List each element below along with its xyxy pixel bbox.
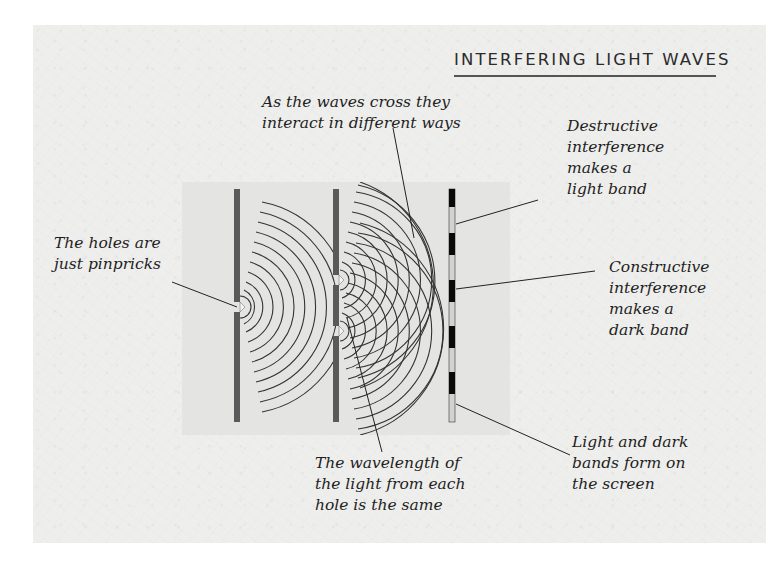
double-slit-barrier xyxy=(333,189,344,422)
label-bands-on-screen: Light and dark bands form on the screen xyxy=(572,432,688,495)
screen-with-bands xyxy=(449,189,455,422)
single-slit-wavefronts xyxy=(240,202,348,412)
upper-slit-wavefronts xyxy=(339,182,435,388)
label-constructive-interference: Constructive interference makes a dark b… xyxy=(609,257,710,341)
label-pinprick-holes: The holes are just pinpricks xyxy=(54,233,161,275)
label-wavelength-same: The wavelength of the light from each ho… xyxy=(315,453,465,516)
single-slit-barrier xyxy=(234,189,245,422)
label-destructive-interference: Destructive interference makes a light b… xyxy=(567,116,664,200)
label-waves-cross: As the waves cross they interact in diff… xyxy=(262,92,461,134)
